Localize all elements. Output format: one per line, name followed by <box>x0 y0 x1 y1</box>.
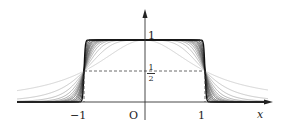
curve-n-8 <box>17 40 268 102</box>
curve-n-5 <box>17 40 268 102</box>
curve-n-6 <box>17 40 268 102</box>
curve-n-20 <box>17 40 268 102</box>
half-denominator: 2 <box>148 74 153 83</box>
curve-n-1 <box>17 40 268 91</box>
curve-n-15 <box>17 40 268 102</box>
curve-n-7 <box>17 40 268 102</box>
half-numerator: 1 <box>148 63 153 72</box>
x-tick-label-1: 1 <box>198 110 205 121</box>
y-axis-arrow-icon <box>143 9 148 18</box>
curve-n-3 <box>17 40 268 101</box>
x-axis-label: x <box>257 109 263 120</box>
x-tick-label-neg1: −1 <box>70 110 86 121</box>
curve-n-4 <box>17 40 268 102</box>
curve-n-12 <box>17 40 268 102</box>
plot-area <box>0 0 288 128</box>
diagram-canvas: 1 1 2 −1 O 1 x <box>0 0 288 128</box>
curve-n-2 <box>17 40 268 99</box>
curve-n-10 <box>17 40 268 102</box>
curve-n-30 <box>17 40 268 102</box>
curve-n-50 <box>17 40 268 102</box>
y-tick-label-1: 1 <box>148 30 155 41</box>
y-tick-label-half: 1 2 <box>147 64 155 83</box>
curve-family <box>17 40 268 102</box>
x-axis-arrow-icon <box>264 100 273 105</box>
origin-label: O <box>129 110 138 121</box>
